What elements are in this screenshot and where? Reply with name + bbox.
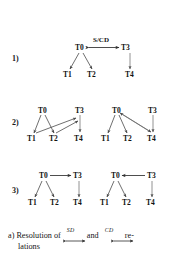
caption-suffix: re- <box>123 231 134 240</box>
cd-relation-label: CD <box>105 225 114 236</box>
figure-caption: a) Resolution of SD and CD re- lations <box>8 230 170 252</box>
node-t1-r2l: T1 <box>27 134 36 143</box>
node-t4-r2r: T4 <box>147 134 156 143</box>
edge-t0-t2-r2l <box>45 115 54 133</box>
node-t3-r1: T3 <box>121 43 130 52</box>
node-t1-r3r: T1 <box>100 198 109 207</box>
sd-relation-label: SD <box>67 225 75 236</box>
row-label-3: 3) <box>12 186 19 195</box>
node-t1-r3l: T1 <box>28 198 37 207</box>
edge-t0-t1-r3r <box>107 181 114 197</box>
caption-line-2: lations <box>8 241 170 252</box>
node-t0-r3l: T0 <box>39 171 48 180</box>
edge-t0-t2-r3l <box>46 181 54 197</box>
edge-t0-t1-r2r <box>108 115 115 133</box>
edge-label-scd: S/CD <box>93 36 109 44</box>
edge-t0-t2 <box>83 53 92 69</box>
node-t3-r3r: T3 <box>147 171 156 180</box>
node-t3-r2l: T3 <box>75 106 84 115</box>
edge-t0-t1-r2l <box>34 115 41 133</box>
edge-t1-t3-r2l <box>36 118 76 133</box>
edge-t4-t0-r2r <box>120 113 149 131</box>
node-t3-r2r: T3 <box>148 106 157 115</box>
node-t0-r3r: T0 <box>111 171 120 180</box>
node-t2-r1: T2 <box>87 70 96 79</box>
node-t0-r2r: T0 <box>112 106 121 115</box>
cd-relation-symbol: CD <box>101 232 123 240</box>
row-label-1: 1) <box>12 54 19 63</box>
edge-t2-t3-r2l <box>56 121 78 133</box>
node-t0-r2l: T0 <box>38 106 47 115</box>
node-t2-r3r: T2 <box>122 198 131 207</box>
node-t4-r2l: T4 <box>74 134 83 143</box>
edge-t0-t4-r2r <box>122 114 151 132</box>
figure-diagram-panel: 1) 2) 3) S/CD T0 T3 T1 T2 T4 T0 T3 T1 T2… <box>0 0 174 273</box>
node-t4-r3r: T4 <box>146 198 155 207</box>
node-t3-r3l: T3 <box>73 171 82 180</box>
row-label-2: 2) <box>12 118 19 127</box>
caption-mid: and <box>85 231 101 240</box>
node-t4-r3l: T4 <box>73 198 82 207</box>
node-t2-r3l: T2 <box>50 198 59 207</box>
node-t1-r2r: T1 <box>101 134 110 143</box>
edge-t0-t2-r2r <box>119 115 127 133</box>
sd-relation-symbol: SD <box>63 232 85 240</box>
node-t4-r1: T4 <box>125 70 134 79</box>
edge-t0-t2-r3r <box>118 181 126 197</box>
edge-t0-t1 <box>70 53 79 69</box>
caption-prefix: a) Resolution of <box>8 231 63 240</box>
node-t2-r2l: T2 <box>49 134 58 143</box>
node-t2-r2r: T2 <box>123 134 132 143</box>
node-t0-r1: T0 <box>75 43 84 52</box>
node-t1-r1: T1 <box>63 70 72 79</box>
edge-t0-t1-r3l <box>35 181 42 197</box>
